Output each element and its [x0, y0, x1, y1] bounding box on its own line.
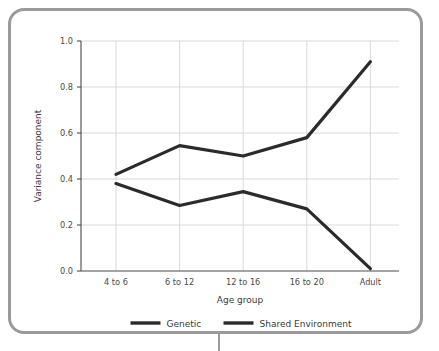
screen-bezel: 0.00.20.40.60.81.04 to 66 to 1212 to 161… [8, 8, 423, 334]
y-axis-title: Variance component [33, 109, 43, 202]
chart-container: 0.00.20.40.60.81.04 to 66 to 1212 to 161… [11, 11, 426, 337]
y-tick-label: 0.8 [60, 82, 73, 92]
legend-label-2: Shared Environment [260, 319, 352, 329]
x-tick-label: 6 to 12 [165, 277, 194, 287]
y-tick-label: 0.4 [60, 174, 73, 184]
x-tick-label: Adult [360, 277, 382, 287]
y-tick-label: 1.0 [60, 36, 73, 46]
legend-label-1: Genetic [167, 319, 202, 329]
line-chart: 0.00.20.40.60.81.04 to 66 to 1212 to 161… [11, 11, 426, 337]
y-tick-label: 0.2 [60, 220, 73, 230]
x-tick-label: 16 to 20 [290, 277, 324, 287]
x-tick-label: 12 to 16 [226, 277, 260, 287]
x-axis-title: Age group [217, 295, 264, 305]
screen-stand-tab [218, 334, 220, 351]
y-tick-label: 0.6 [60, 128, 73, 138]
x-tick-label: 4 to 6 [104, 277, 128, 287]
y-tick-label: 0.0 [60, 266, 73, 276]
